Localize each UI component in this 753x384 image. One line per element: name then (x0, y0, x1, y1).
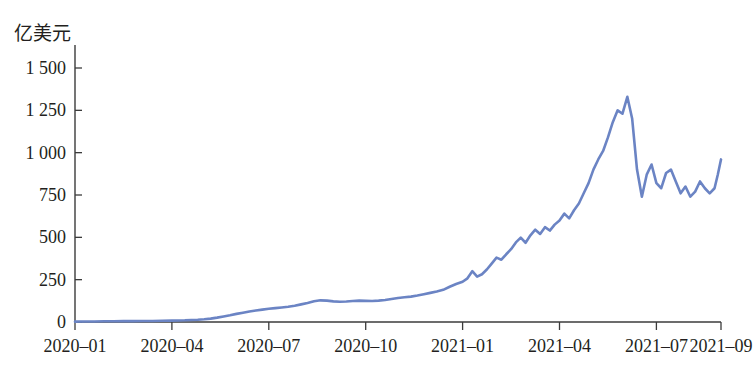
y-tick-label: 250 (39, 270, 66, 290)
x-tick-label: 2021–04 (528, 336, 591, 356)
x-tick-label: 2021–07 (625, 336, 688, 356)
y-axis-title: 亿美元 (14, 22, 71, 44)
x-tick-label: 2021–09 (690, 336, 753, 356)
chart-container: 亿美元 02505007501 0001 2501 500 2020–01202… (0, 0, 753, 384)
line-chart: 亿美元 02505007501 0001 2501 500 2020–01202… (0, 0, 753, 384)
x-axis-ticks: 2020–012020–042020–072020–102021–012021–… (44, 322, 753, 356)
x-tick-label: 2020–07 (237, 336, 300, 356)
y-tick-label: 1 500 (26, 58, 67, 78)
x-tick-label: 2020–04 (140, 336, 203, 356)
y-tick-label: 1 000 (26, 143, 67, 163)
y-axis-ticks: 02505007501 0001 2501 500 (26, 58, 83, 332)
series-line (75, 97, 721, 322)
y-tick-label: 500 (39, 227, 66, 247)
series-group (75, 97, 721, 322)
y-tick-label: 750 (39, 185, 66, 205)
x-tick-label: 2020–01 (44, 336, 107, 356)
x-tick-label: 2021–01 (431, 336, 494, 356)
y-tick-label: 0 (57, 312, 66, 332)
x-tick-label: 2020–10 (334, 336, 397, 356)
y-tick-label: 1 250 (26, 100, 67, 120)
